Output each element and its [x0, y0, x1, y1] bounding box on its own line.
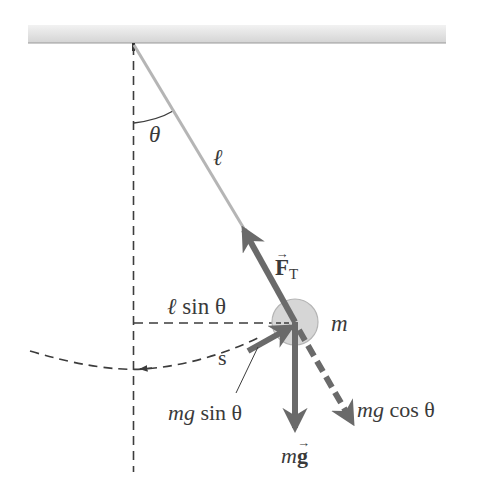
tangential-component-label: mg sin θ: [168, 402, 242, 424]
arc-length-label: s: [218, 347, 227, 369]
length-label: ℓ: [213, 146, 223, 169]
radial-component-label: mg cos θ: [357, 399, 435, 421]
tension-vector: → F: [275, 256, 289, 279]
mass-label: m: [331, 312, 348, 335]
vector-arrow-icon: →: [275, 247, 289, 260]
arc-arrowhead: [140, 368, 152, 369]
weight-label: m→g: [281, 445, 308, 467]
arc-path: [30, 336, 262, 369]
pendulum-diagram: [0, 0, 477, 501]
ceiling: [28, 25, 446, 43]
weight-vector: →g: [297, 445, 308, 467]
vector-arrow-icon: →: [297, 436, 308, 449]
theta-label: θ: [149, 123, 160, 146]
tangential-label-leader: [236, 347, 258, 393]
horizontal-displacement-label: ℓ sin θ: [167, 295, 226, 318]
tension-label: → F T: [275, 256, 298, 282]
radial-component-arrow: [299, 330, 352, 422]
